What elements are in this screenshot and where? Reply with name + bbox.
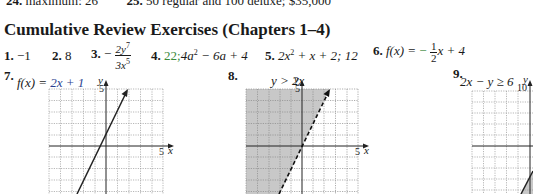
graph-9-plot bbox=[0, 0, 533, 194]
grid bbox=[472, 91, 533, 194]
y-arrow-icon bbox=[528, 80, 533, 86]
